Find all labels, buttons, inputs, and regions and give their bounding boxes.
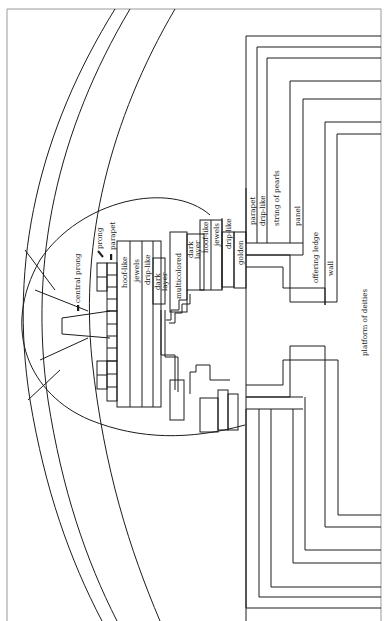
label-panel: panel [293, 205, 302, 226]
label-multicolored: multicolored [174, 252, 183, 299]
label-drip-like-wall: drip-like [258, 195, 267, 226]
label-prong: prong [95, 227, 104, 249]
mandala-diagram: central prong prong parapet hoof-like je… [0, 0, 390, 621]
label-parapet-wall: parapet [248, 197, 257, 225]
label-central-prong: central prong [73, 253, 82, 303]
label-hoof-like-2: hoof-like [201, 222, 210, 253]
label-wall: wall [326, 260, 335, 276]
label-string-of-pearls: string of pearls [272, 170, 281, 226]
label-platform-of-deities: platform of deities [360, 289, 369, 356]
parapet-blocks [97, 263, 117, 401]
label-drip-like-2: drip-like [224, 218, 233, 249]
label-jewels-1: jewels [132, 259, 141, 283]
label-offering-ledge: offering ledge [311, 232, 320, 283]
label-layer-1: layer [160, 272, 169, 291]
page-frame [7, 9, 381, 621]
label-drip-like-1: drip-like [143, 254, 152, 285]
label-hoof-like-1: hoof-like [120, 257, 129, 288]
nested-walls-bottom [246, 346, 381, 608]
label-parapet-top: parapet [108, 222, 117, 250]
outer-rings [23, 9, 175, 621]
label-golden: golden [236, 240, 245, 265]
label-jewels-2: jewels [212, 223, 221, 247]
